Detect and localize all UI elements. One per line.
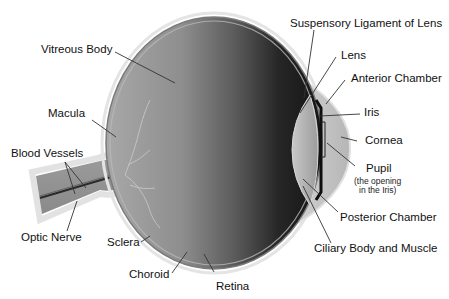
label-sclera: Sclera xyxy=(107,237,140,249)
eyeball xyxy=(106,17,322,269)
label-suspensory-ligament: Suspensory Ligament of Lens xyxy=(290,18,442,30)
label-vitreous-body: Vitreous Body xyxy=(41,44,112,56)
label-cornea: Cornea xyxy=(365,135,403,147)
label-choroid: Choroid xyxy=(129,269,169,281)
label-lens: Lens xyxy=(341,50,366,62)
label-retina: Retina xyxy=(216,281,249,293)
label-pupil-note-line2: in the Iris) xyxy=(359,186,396,195)
label-posterior-chamber: Posterior Chamber xyxy=(340,212,437,224)
label-blood-vessels: Blood Vessels xyxy=(11,148,83,160)
label-macula: Macula xyxy=(48,108,85,120)
label-pupil: Pupil xyxy=(366,163,392,175)
label-ciliary-body: Ciliary Body and Muscle xyxy=(314,243,437,255)
label-iris: Iris xyxy=(364,107,379,119)
label-optic-nerve: Optic Nerve xyxy=(21,232,82,244)
label-anterior-chamber: Anterior Chamber xyxy=(351,73,442,85)
